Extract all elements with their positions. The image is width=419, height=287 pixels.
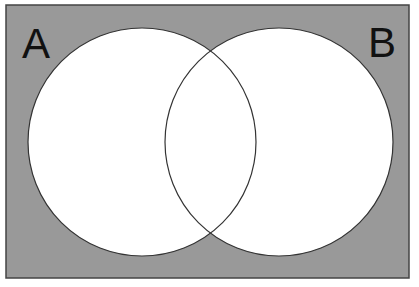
set-a-label: A xyxy=(22,20,50,67)
set-b-label: B xyxy=(368,19,396,66)
venn-diagram: A B xyxy=(0,0,419,287)
set-b-fill xyxy=(165,28,393,256)
